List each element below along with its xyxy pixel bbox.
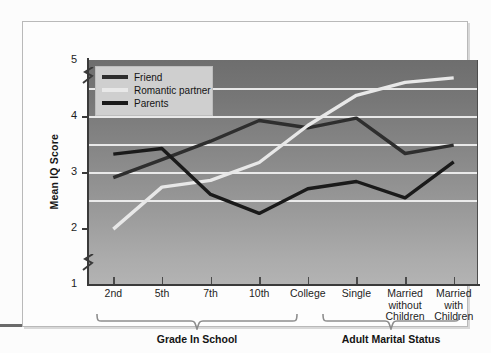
legend-label-parents: Parents	[134, 98, 168, 109]
group-label-adult-marital-status: Adult Marital Status	[291, 333, 491, 345]
y-tick-label: 5	[61, 54, 77, 64]
legend-label-romantic-partner: Romantic partner	[134, 85, 211, 96]
x-axis-line	[87, 284, 480, 286]
y-tick-label: 2	[61, 222, 77, 232]
legend-label-friend: Friend	[134, 72, 162, 83]
y-axis-break-bottom-icon	[80, 254, 94, 271]
x-tick-mark	[356, 277, 358, 284]
legend-swatch-parents	[102, 101, 128, 105]
y-tick-label: 3	[61, 166, 77, 176]
y-tick-mark	[82, 228, 88, 230]
y-axis-break-top-icon	[80, 67, 94, 84]
legend-item-friend: Friend	[102, 71, 206, 83]
x-tick-mark	[308, 277, 310, 284]
x-tick-mark	[454, 277, 456, 284]
y-tick-label: 1	[61, 278, 77, 288]
x-tick-mark	[259, 277, 261, 284]
y-tick-label: 4	[61, 110, 77, 120]
legend-swatch-friend	[102, 75, 128, 79]
series-line-friend	[113, 118, 453, 177]
legend-swatch-romantic-partner	[102, 88, 128, 92]
x-tick-mark	[405, 277, 407, 284]
y-tick-mark	[82, 116, 88, 118]
brace-adult-marital-status	[321, 314, 461, 330]
x-tick-mark	[211, 277, 213, 284]
chart-figure-frame: Mean IQ Score 12345 2nd5th7th10thCollege…	[22, 21, 468, 327]
group-label-grade-in-school: Grade In School	[97, 333, 297, 345]
x-tick-mark	[113, 277, 115, 284]
legend: Friend Romantic partner Parents	[95, 66, 213, 116]
y-tick-mark	[82, 172, 88, 174]
brace-grade-in-school	[95, 314, 299, 330]
legend-item-parents: Parents	[102, 97, 206, 109]
legend-item-romantic-partner: Romantic partner	[102, 84, 206, 96]
figure-root: Mean IQ Score 12345 2nd5th7th10thCollege…	[0, 0, 491, 353]
y-axis-title: Mean IQ Score	[48, 134, 60, 210]
x-tick-mark	[162, 277, 164, 284]
